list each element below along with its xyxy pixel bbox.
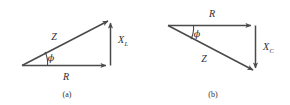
vector-r-label-a: R: [62, 71, 69, 82]
vector-z-label-b: Z: [201, 53, 207, 64]
figure-container: Z XL R ϕ (a) R XC Z ϕ: [0, 0, 290, 105]
vector-xc-label-b: XC: [262, 41, 275, 54]
vector-z-label-a: Z: [51, 31, 57, 42]
angle-phi-label-a: ϕ: [48, 52, 55, 63]
vector-z-line-b: [168, 26, 253, 71]
impedance-triangles-figure: Z XL R ϕ (a) R XC Z ϕ: [0, 0, 290, 105]
vector-xc-label-sub-b: C: [270, 47, 275, 54]
vector-xl-label-sub-a: L: [124, 40, 129, 47]
panel-b: R XC Z ϕ (b): [168, 8, 275, 99]
vector-z-line-a: [22, 21, 108, 66]
vector-xl-label-a: XL: [117, 34, 129, 47]
angle-phi-label-b: ϕ: [194, 28, 201, 39]
panel-b-caption: (b): [208, 90, 218, 99]
panel-a: Z XL R ϕ (a): [22, 21, 129, 99]
vector-r-label-b: R: [208, 8, 215, 19]
panel-a-caption: (a): [63, 90, 72, 99]
